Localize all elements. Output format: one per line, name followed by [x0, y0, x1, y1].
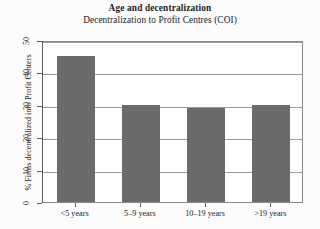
chart-figure: Age and decentralization Decentralizatio…	[0, 0, 320, 229]
x-tick-1	[140, 203, 141, 207]
y-tick-10	[37, 171, 42, 172]
x-tick-label-0: <5 years	[42, 209, 107, 219]
y-axis-line	[42, 41, 43, 203]
y-tick-0	[37, 203, 42, 204]
y-tick-20	[37, 138, 42, 139]
y-tick-label-30: 30	[23, 98, 31, 114]
x-tick-3	[270, 203, 271, 207]
bar-3	[252, 105, 290, 202]
y-tick-40	[37, 73, 42, 74]
y-tick-label-50: 50	[23, 33, 31, 49]
x-tick-0	[75, 203, 76, 207]
chart-subtitle: Decentralization to Profit Centres (COI)	[0, 14, 320, 26]
chart-title: Age and decentralization	[0, 3, 320, 14]
y-tick-30	[37, 106, 42, 107]
bar-0	[57, 56, 95, 202]
y-tick-label-20: 20	[23, 130, 31, 146]
gridline-50	[43, 42, 302, 43]
title-block: Age and decentralization Decentralizatio…	[0, 3, 320, 26]
y-tick-label-40: 40	[23, 65, 31, 81]
y-tick-label-0: 0	[23, 195, 31, 211]
x-tick-label-1: 5–9 years	[107, 209, 172, 219]
bar-1	[122, 105, 160, 202]
plot-area	[42, 41, 303, 203]
y-tick-label-10: 10	[23, 163, 31, 179]
x-tick-label-2: 10–19 years	[173, 209, 238, 219]
x-tick-2	[205, 203, 206, 207]
y-tick-50	[37, 41, 42, 42]
x-tick-label-3: >19 years	[238, 209, 303, 219]
bar-2	[187, 108, 225, 202]
